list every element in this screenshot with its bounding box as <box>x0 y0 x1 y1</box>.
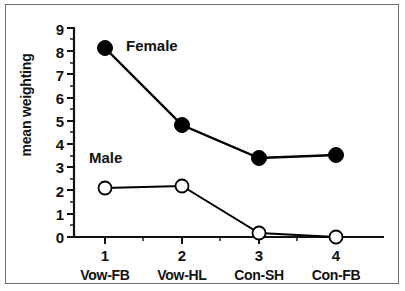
male-point-2 <box>176 180 189 193</box>
male-point-3 <box>253 227 266 240</box>
x-category-label-con-fb: Con-FB <box>291 268 381 282</box>
x-tick-number-1: 1 <box>90 248 120 263</box>
female-point-2 <box>175 118 190 133</box>
chart-svg <box>6 5 400 285</box>
y-tick-label-7: 7 <box>46 68 64 83</box>
x-tick-number-4: 4 <box>321 248 351 263</box>
y-tick-label-1: 1 <box>46 207 64 222</box>
x-tick-number-2: 2 <box>167 248 197 263</box>
series-female <box>98 41 344 166</box>
female-point-4 <box>329 148 344 163</box>
y-tick-label-2: 2 <box>46 184 64 199</box>
female-point-3 <box>252 151 267 166</box>
series-label-female: Female <box>126 38 178 53</box>
series-male <box>99 180 343 244</box>
male-point-4 <box>330 231 343 244</box>
y-tick-label-9: 9 <box>46 22 64 37</box>
axes-group <box>67 27 384 244</box>
y-tick-label-6: 6 <box>46 91 64 106</box>
y-tick-label-3: 3 <box>46 160 64 175</box>
male-point-1 <box>99 182 112 195</box>
female-point-1 <box>98 41 113 56</box>
x-tick-number-3: 3 <box>244 248 274 263</box>
y-axis-title: mean weighting <box>18 25 34 185</box>
female-line <box>105 48 336 158</box>
y-tick-label-4: 4 <box>46 137 64 152</box>
chart-plot-area: mean weighting 9 8 7 6 5 4 3 2 1 0 <box>6 5 400 285</box>
figure-frame: mean weighting 9 8 7 6 5 4 3 2 1 0 <box>5 4 399 284</box>
y-tick-label-0: 0 <box>46 230 64 245</box>
male-line <box>105 186 336 237</box>
y-tick-label-5: 5 <box>46 114 64 129</box>
y-tick-label-8: 8 <box>46 45 64 60</box>
series-label-male: Male <box>89 150 122 165</box>
